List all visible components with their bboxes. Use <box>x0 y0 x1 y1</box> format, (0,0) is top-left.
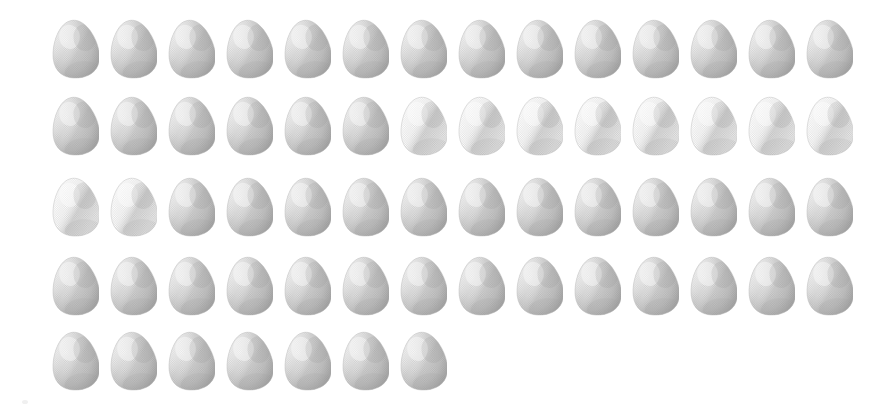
egg-icon <box>110 176 157 237</box>
egg-icon <box>748 176 795 237</box>
egg-icon <box>632 95 679 156</box>
egg-icon <box>574 255 621 316</box>
egg-icon <box>342 255 389 316</box>
egg-icon <box>110 18 157 79</box>
egg-icon <box>52 330 99 391</box>
egg-row-2 <box>52 95 864 156</box>
egg-icon <box>226 18 273 79</box>
egg-icon <box>574 176 621 237</box>
egg-icon <box>342 95 389 156</box>
egg-icon <box>342 176 389 237</box>
egg-icon <box>632 18 679 79</box>
egg-icon <box>400 95 447 156</box>
egg-icon <box>168 95 215 156</box>
egg-icon <box>52 255 99 316</box>
egg-icon <box>226 255 273 316</box>
egg-icon <box>806 255 853 316</box>
egg-icon <box>400 330 447 391</box>
egg-icon <box>690 95 737 156</box>
egg-icon <box>400 176 447 237</box>
egg-icon <box>342 18 389 79</box>
egg-icon <box>458 18 505 79</box>
egg-icon <box>632 176 679 237</box>
egg-icon <box>690 18 737 79</box>
egg-icon <box>400 18 447 79</box>
egg-icon <box>52 18 99 79</box>
egg-row-5 <box>52 330 458 391</box>
egg-icon <box>110 330 157 391</box>
egg-icon <box>284 18 331 79</box>
egg-icon <box>748 95 795 156</box>
egg-icon <box>574 95 621 156</box>
egg-icon <box>458 95 505 156</box>
egg-icon <box>574 18 621 79</box>
egg-icon <box>168 18 215 79</box>
egg-icon <box>458 255 505 316</box>
egg-icon <box>226 176 273 237</box>
egg-icon <box>110 95 157 156</box>
egg-icon <box>52 95 99 156</box>
egg-icon <box>690 176 737 237</box>
egg-grid-canvas <box>0 0 886 418</box>
egg-icon <box>52 176 99 237</box>
egg-icon <box>458 176 505 237</box>
egg-icon <box>516 255 563 316</box>
egg-icon <box>690 255 737 316</box>
egg-icon <box>806 95 853 156</box>
egg-icon <box>168 330 215 391</box>
egg-icon <box>284 330 331 391</box>
egg-icon <box>516 176 563 237</box>
egg-icon <box>806 18 853 79</box>
egg-icon <box>516 18 563 79</box>
egg-icon <box>168 255 215 316</box>
egg-icon <box>342 330 389 391</box>
egg-icon <box>110 255 157 316</box>
egg-icon <box>284 255 331 316</box>
egg-icon <box>632 255 679 316</box>
egg-icon <box>748 255 795 316</box>
egg-icon <box>400 255 447 316</box>
egg-icon <box>806 176 853 237</box>
egg-row-1 <box>52 18 864 79</box>
egg-icon <box>168 176 215 237</box>
egg-icon <box>226 95 273 156</box>
egg-icon <box>284 95 331 156</box>
egg-row-3 <box>52 176 864 237</box>
egg-icon <box>516 95 563 156</box>
egg-icon <box>748 18 795 79</box>
egg-icon <box>226 330 273 391</box>
egg-row-4 <box>52 255 864 316</box>
scan-speck <box>22 400 28 404</box>
egg-icon <box>284 176 331 237</box>
